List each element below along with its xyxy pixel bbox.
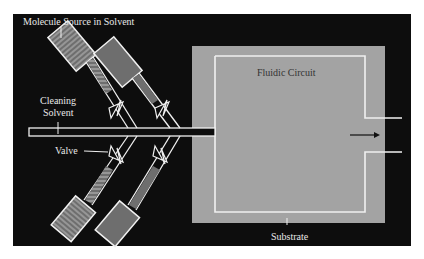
cleaning-solvent-label-line1: Cleaning (40, 95, 76, 106)
fluidic-circuit-label: Fluidic Circuit (257, 67, 316, 78)
cleaning-solvent-label-line2: Solvent (43, 107, 74, 118)
molecule-source-label: Molecule Source in Solvent (23, 16, 135, 27)
cleaning-solvent-channel (29, 128, 215, 136)
substrate-label: Substrate (271, 231, 309, 242)
microfluidic-diagram: Molecule Source in Solvent Cleaning Solv… (0, 0, 424, 259)
valve-label: Valve (55, 145, 78, 156)
